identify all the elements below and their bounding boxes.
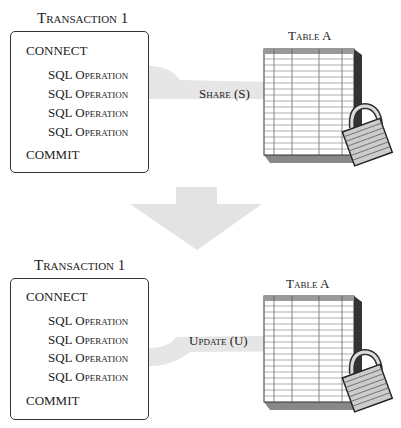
table-title: Table A	[286, 276, 329, 292]
sql-operation: SQL Operation	[48, 313, 128, 329]
padlock-icon	[340, 346, 400, 416]
sql-operation-highlighted: SQL Operation	[48, 350, 128, 366]
connect-label: CONNECT	[26, 289, 87, 305]
sql-operation: SQL Operation	[48, 332, 128, 348]
commit-label: COMMIT	[26, 393, 79, 409]
transaction-title: Transaction 1	[34, 257, 125, 274]
lock-type-label: Update (U)	[189, 333, 248, 349]
sql-operation: SQL Operation	[48, 369, 128, 385]
